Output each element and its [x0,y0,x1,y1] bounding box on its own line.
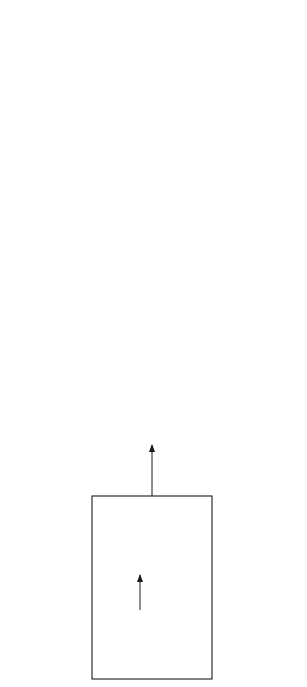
diagram-canvas [0,0,307,687]
childhood-box [92,496,212,679]
